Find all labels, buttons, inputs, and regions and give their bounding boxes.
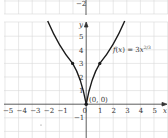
svg-text:4: 4	[79, 47, 84, 55]
svg-text:3: 3	[79, 60, 83, 68]
svg-text:−1: −1	[74, 114, 84, 122]
svg-text:−3: −3	[30, 107, 40, 115]
svg-text:−4: −4	[17, 107, 28, 115]
svg-text:−5: −5	[3, 107, 13, 115]
point-origin	[84, 102, 88, 106]
function-graph: −2 x y −5 −4 −3 −2 −1 0 1 2 3 4	[0, 0, 168, 138]
function-curve-right	[86, 21, 125, 104]
svg-text:2: 2	[112, 107, 116, 115]
svg-text:3: 3	[125, 107, 129, 115]
function-label: f(x) = 3x2/3	[112, 45, 151, 54]
svg-text:1: 1	[98, 107, 102, 115]
y-axis-arrow-icon	[84, 22, 88, 27]
svg-text:4: 4	[139, 107, 144, 115]
point-1-3	[98, 62, 101, 65]
svg-text:5: 5	[79, 33, 83, 41]
svg-text:−2: −2	[44, 107, 54, 115]
stray-mark	[40, 124, 41, 125]
svg-text:−1: −1	[57, 107, 67, 115]
svg-text:5: 5	[152, 107, 156, 115]
axes	[4, 22, 167, 138]
x-axis-arrow-icon	[162, 102, 167, 106]
point-neg1-3	[71, 62, 74, 65]
origin-label: (0, 0)	[89, 96, 108, 104]
x-axis-label: x	[163, 107, 167, 115]
top-strip-tick-label: −2	[76, 0, 86, 8]
